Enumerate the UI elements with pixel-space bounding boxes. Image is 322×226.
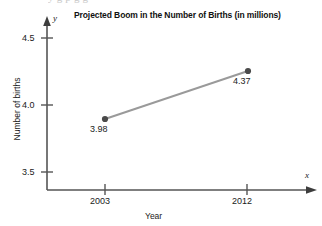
x-tick-label-2012: 2012 xyxy=(232,196,252,206)
chart-figure: y g p g g Projected Boom in the Number o… xyxy=(0,0,322,226)
x-axis-arrowhead xyxy=(306,186,317,194)
y-axis-arrowhead xyxy=(43,16,51,26)
data-point-value-2012: 4.37 xyxy=(233,76,251,86)
y-axis-symbol: y xyxy=(53,13,57,23)
y-axis-title: Number of births xyxy=(12,64,22,154)
plot-area xyxy=(0,0,322,226)
data-point-marker-2003 xyxy=(102,116,108,122)
x-axis-title: Year xyxy=(145,211,162,221)
y-tick-label-4-0: 4.0 xyxy=(22,100,35,110)
y-tick-label-4-5: 4.5 xyxy=(22,33,35,43)
y-tick-label-3-5: 3.5 xyxy=(22,167,35,177)
x-tick-label-2003: 2003 xyxy=(90,196,110,206)
data-line-segment xyxy=(105,71,248,119)
x-axis-symbol: x xyxy=(305,170,309,180)
data-point-marker-2012 xyxy=(245,68,251,74)
data-point-value-2003: 3.98 xyxy=(90,124,108,134)
